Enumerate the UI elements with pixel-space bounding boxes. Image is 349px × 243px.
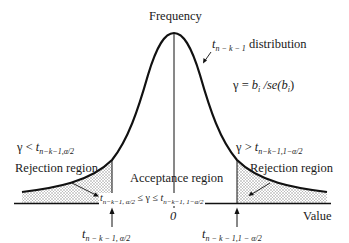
right-critical-arrow-icon: [235, 208, 240, 228]
right-condition-subscript: n−k−1,1−α/2: [258, 147, 302, 156]
statistic-mid: /se(: [260, 78, 281, 92]
acceptance-inequality: tn−k−1, α/2 ≤ γ ≤ tn−k−1, 1−α/2: [99, 193, 205, 206]
left-condition: γ < tn−k−1,α/2: [17, 141, 74, 156]
left-condition-prefix: γ <: [17, 140, 36, 154]
right-critical-subscript: n − k − 1,1 − α/2: [205, 234, 261, 243]
zero-tick-label: 0: [170, 210, 176, 223]
left-condition-subscript: n−k−1,α/2: [39, 147, 74, 156]
acceptance-middle: ≤ γ ≤: [135, 192, 160, 203]
statistic-lhs: γ =: [233, 78, 252, 92]
left-critical-value-label: tn − k − 1, α/2: [82, 228, 130, 243]
acceptance-left-sub: n−k−1, α/2: [103, 198, 135, 206]
distribution-label: tn − k − 1 distribution: [212, 38, 307, 53]
left-critical-subscript: n − k − 1, α/2: [85, 234, 130, 243]
left-rejection-label: Rejection region: [15, 162, 98, 175]
left-critical-arrow-icon: [110, 208, 115, 228]
acceptance-region-label: Acceptance region: [130, 172, 223, 185]
right-rejection-label: Rejection region: [250, 162, 333, 175]
distribution-text: distribution: [249, 37, 307, 51]
x-axis-label: Value: [303, 210, 331, 223]
right-critical-value-label: tn − k − 1,1 − α/2: [202, 228, 262, 243]
acceptance-right-sub: n−k−1, 1−α/2: [163, 198, 203, 206]
frequency-axis-label: Frequency: [149, 10, 202, 23]
statistic-end: ): [290, 78, 294, 92]
distribution-subscript: n − k − 1: [215, 44, 245, 53]
right-condition: γ > tn−k−1,1−α/2: [236, 141, 302, 156]
statistic-formula: γ = bi /se(bi): [233, 79, 294, 94]
distribution-pointer-icon: [203, 52, 211, 64]
right-condition-prefix: γ >: [236, 140, 255, 154]
